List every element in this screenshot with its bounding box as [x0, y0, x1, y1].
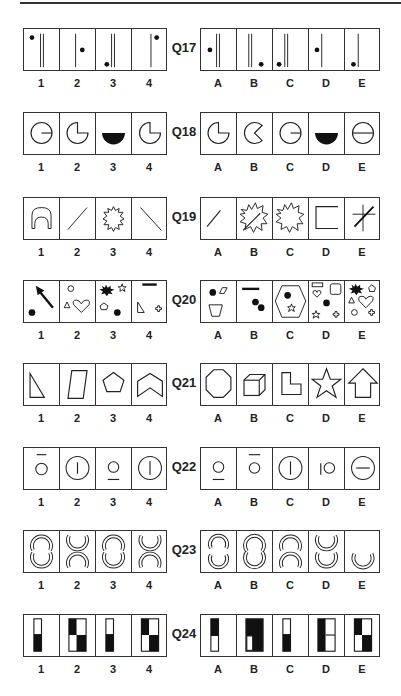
- cell-label: 3: [95, 329, 131, 341]
- q17-option-a[interactable]: [201, 29, 237, 70]
- q22-cell-2[interactable]: [60, 448, 96, 489]
- q19-option-e[interactable]: [345, 198, 381, 239]
- q22-option-e[interactable]: [345, 448, 381, 489]
- q18-cell-1[interactable]: [24, 113, 60, 154]
- question-label: Q19: [168, 209, 200, 224]
- q23-option-e[interactable]: [345, 531, 381, 572]
- q17-option-d[interactable]: [309, 29, 345, 70]
- q19-sequence: [23, 197, 167, 240]
- option-label: D: [308, 246, 344, 258]
- q23-option-a[interactable]: [201, 531, 237, 572]
- q22-cell-1[interactable]: [24, 448, 60, 489]
- q19-cell-4[interactable]: [132, 198, 168, 239]
- q18-option-c[interactable]: [273, 113, 309, 154]
- option-label: E: [344, 246, 380, 258]
- q19-options: [200, 197, 380, 240]
- q23-cell-2[interactable]: [60, 531, 96, 572]
- q23-option-d[interactable]: [309, 531, 345, 572]
- q22-cell-3[interactable]: [96, 448, 132, 489]
- q21-option-b[interactable]: [237, 364, 273, 405]
- q23-options: [200, 530, 380, 573]
- q22-option-c[interactable]: [273, 448, 309, 489]
- q24-cell-2[interactable]: [60, 615, 96, 656]
- q18-cell-4[interactable]: [132, 113, 168, 154]
- cell-label: 4: [131, 161, 167, 173]
- q21-sequence: [23, 363, 167, 406]
- q17-option-e[interactable]: [345, 29, 381, 70]
- option-label: B: [236, 77, 272, 89]
- q24-cell-4[interactable]: [132, 615, 168, 656]
- q19-option-c[interactable]: [273, 198, 309, 239]
- q19-option-d[interactable]: [309, 198, 345, 239]
- q20-cell-1[interactable]: [24, 281, 60, 322]
- q21-option-c[interactable]: [273, 364, 309, 405]
- q22-option-b[interactable]: [237, 448, 273, 489]
- q24-option-e[interactable]: [345, 615, 381, 656]
- q20-sequence: [23, 280, 167, 323]
- q21-cell-2[interactable]: [60, 364, 96, 405]
- q22-option-d[interactable]: [309, 448, 345, 489]
- q17-option-b[interactable]: [237, 29, 273, 70]
- q21-cell-3[interactable]: [96, 364, 132, 405]
- q24-option-c[interactable]: [273, 615, 309, 656]
- top-rule: [20, 2, 401, 4]
- q17-cell-4[interactable]: [132, 29, 168, 70]
- q23-option-c[interactable]: [273, 531, 309, 572]
- q22-cell-4[interactable]: [132, 448, 168, 489]
- option-label: D: [308, 161, 344, 173]
- q18-cell-3[interactable]: [96, 113, 132, 154]
- q23-option-b[interactable]: [237, 531, 273, 572]
- cell-label: 3: [95, 161, 131, 173]
- q24-option-a[interactable]: [201, 615, 237, 656]
- q20-cell-2[interactable]: [60, 281, 96, 322]
- cell-label: 4: [131, 329, 167, 341]
- q18-option-a[interactable]: [201, 113, 237, 154]
- option-label: D: [308, 77, 344, 89]
- q20-cell-4[interactable]: [132, 281, 168, 322]
- option-label: D: [308, 579, 344, 591]
- q20-option-b[interactable]: [237, 281, 273, 322]
- question-row-q18: Q18 1234 ABCDE: [0, 112, 401, 182]
- q21-option-a[interactable]: [201, 364, 237, 405]
- q18-option-labels: ABCDE: [200, 161, 380, 173]
- q19-cell-2[interactable]: [60, 198, 96, 239]
- q17-option-c[interactable]: [273, 29, 309, 70]
- option-label: E: [344, 329, 380, 341]
- cell-label: 3: [95, 77, 131, 89]
- q19-cell-1[interactable]: [24, 198, 60, 239]
- q22-option-a[interactable]: [201, 448, 237, 489]
- cell-label: 1: [23, 496, 59, 508]
- q17-cell-2[interactable]: [60, 29, 96, 70]
- q20-option-e[interactable]: [345, 281, 381, 322]
- q23-cell-3[interactable]: [96, 531, 132, 572]
- q21-cell-1[interactable]: [24, 364, 60, 405]
- q17-cell-1[interactable]: [24, 29, 60, 70]
- q19-option-a[interactable]: [201, 198, 237, 239]
- q24-cell-3[interactable]: [96, 615, 132, 656]
- q21-option-d[interactable]: [309, 364, 345, 405]
- q19-option-b[interactable]: [237, 198, 273, 239]
- option-label: B: [236, 161, 272, 173]
- q18-option-e[interactable]: [345, 113, 381, 154]
- question-label: Q22: [168, 459, 200, 474]
- q21-cell-4[interactable]: [132, 364, 168, 405]
- q24-cell-1[interactable]: [24, 615, 60, 656]
- q23-cell-4[interactable]: [132, 531, 168, 572]
- q19-cell-3[interactable]: [96, 198, 132, 239]
- q20-option-a[interactable]: [201, 281, 237, 322]
- option-label: A: [200, 329, 236, 341]
- q24-option-d[interactable]: [309, 615, 345, 656]
- cell-label: 2: [59, 246, 95, 258]
- q21-option-e[interactable]: [345, 364, 381, 405]
- q18-option-d[interactable]: [309, 113, 345, 154]
- q23-cell-1[interactable]: [24, 531, 60, 572]
- q18-option-b[interactable]: [237, 113, 273, 154]
- q20-cell-3[interactable]: [96, 281, 132, 322]
- q17-cell-3[interactable]: [96, 29, 132, 70]
- q24-option-b[interactable]: [237, 615, 273, 656]
- q20-option-c[interactable]: [273, 281, 309, 322]
- q23-option-labels: ABCDE: [200, 579, 380, 591]
- q18-cell-2[interactable]: [60, 113, 96, 154]
- q20-option-d[interactable]: [309, 281, 345, 322]
- cell-label: 3: [95, 412, 131, 424]
